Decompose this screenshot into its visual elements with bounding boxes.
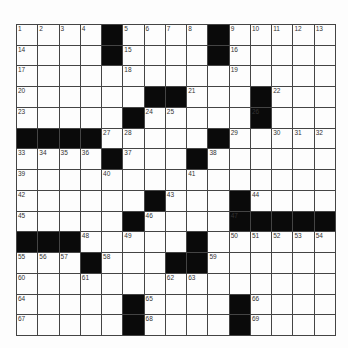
grid-cell[interactable] — [251, 46, 271, 66]
grid-cell[interactable] — [38, 315, 58, 335]
grid-cell[interactable]: 53 — [293, 232, 313, 252]
grid-cell[interactable]: 45 — [17, 212, 37, 232]
grid-cell[interactable]: 1 — [17, 25, 37, 45]
grid-cell[interactable]: 43 — [166, 191, 186, 211]
grid-cell[interactable]: 20 — [17, 87, 37, 107]
grid-cell[interactable] — [166, 129, 186, 149]
grid-cell[interactable]: 67 — [17, 315, 37, 335]
grid-cell[interactable] — [123, 274, 143, 294]
grid-cell[interactable] — [251, 253, 271, 273]
grid-cell[interactable] — [272, 170, 292, 190]
grid-cell[interactable]: 54 — [315, 232, 335, 252]
grid-cell[interactable] — [293, 108, 313, 128]
grid-cell[interactable] — [145, 129, 165, 149]
grid-cell[interactable] — [166, 170, 186, 190]
grid-cell[interactable]: 62 — [166, 274, 186, 294]
grid-cell[interactable]: 11 — [272, 25, 292, 45]
grid-cell[interactable]: 12 — [293, 25, 313, 45]
grid-cell[interactable] — [315, 315, 335, 335]
grid-cell[interactable] — [38, 87, 58, 107]
grid-cell[interactable]: 37 — [123, 149, 143, 169]
grid-cell[interactable]: 55 — [17, 253, 37, 273]
grid-cell[interactable] — [272, 295, 292, 315]
grid-cell[interactable] — [81, 170, 101, 190]
grid-cell[interactable]: 41 — [187, 170, 207, 190]
grid-cell[interactable]: 22 — [272, 87, 292, 107]
grid-cell[interactable] — [293, 253, 313, 273]
grid-cell[interactable] — [60, 66, 80, 86]
grid-cell[interactable] — [315, 170, 335, 190]
grid-cell[interactable] — [208, 212, 228, 232]
grid-cell[interactable] — [166, 149, 186, 169]
grid-cell[interactable] — [230, 108, 250, 128]
grid-cell[interactable]: 66 — [251, 295, 271, 315]
grid-cell[interactable]: 59 — [208, 253, 228, 273]
grid-cell[interactable] — [208, 315, 228, 335]
grid-cell[interactable] — [272, 108, 292, 128]
grid-cell[interactable]: 18 — [123, 66, 143, 86]
grid-cell[interactable] — [102, 295, 122, 315]
grid-cell[interactable] — [293, 274, 313, 294]
grid-cell[interactable] — [123, 191, 143, 211]
grid-cell[interactable]: 9 — [230, 25, 250, 45]
grid-cell[interactable] — [187, 315, 207, 335]
grid-cell[interactable] — [251, 66, 271, 86]
grid-cell[interactable] — [315, 253, 335, 273]
grid-cell[interactable]: 46 — [145, 212, 165, 232]
grid-cell[interactable] — [81, 315, 101, 335]
grid-cell[interactable] — [38, 191, 58, 211]
grid-cell[interactable] — [208, 108, 228, 128]
grid-cell[interactable] — [38, 108, 58, 128]
grid-cell[interactable]: 6 — [145, 25, 165, 45]
grid-cell[interactable] — [187, 129, 207, 149]
grid-cell[interactable] — [60, 170, 80, 190]
grid-cell[interactable] — [60, 212, 80, 232]
grid-cell[interactable]: 10 — [251, 25, 271, 45]
grid-cell[interactable]: 65 — [145, 295, 165, 315]
grid-cell[interactable] — [166, 295, 186, 315]
grid-cell[interactable] — [293, 66, 313, 86]
grid-cell[interactable]: 38 — [208, 149, 228, 169]
grid-cell[interactable] — [145, 253, 165, 273]
grid-cell[interactable] — [60, 46, 80, 66]
grid-cell[interactable] — [293, 87, 313, 107]
grid-cell[interactable] — [315, 66, 335, 86]
grid-cell[interactable] — [208, 170, 228, 190]
grid-cell[interactable] — [60, 274, 80, 294]
grid-cell[interactable] — [187, 46, 207, 66]
grid-cell[interactable] — [102, 274, 122, 294]
grid-cell[interactable] — [123, 87, 143, 107]
grid-cell[interactable] — [60, 315, 80, 335]
grid-cell[interactable] — [315, 108, 335, 128]
grid-cell[interactable] — [145, 66, 165, 86]
grid-cell[interactable] — [102, 212, 122, 232]
grid-cell[interactable]: 15 — [123, 46, 143, 66]
grid-cell[interactable] — [208, 87, 228, 107]
grid-cell[interactable] — [208, 191, 228, 211]
grid-cell[interactable] — [293, 315, 313, 335]
grid-cell[interactable] — [102, 232, 122, 252]
grid-cell[interactable] — [251, 129, 271, 149]
grid-cell[interactable] — [166, 212, 186, 232]
grid-cell[interactable]: 64 — [17, 295, 37, 315]
grid-cell[interactable] — [145, 149, 165, 169]
grid-cell[interactable]: 21 — [187, 87, 207, 107]
grid-cell[interactable] — [315, 46, 335, 66]
grid-cell[interactable] — [38, 170, 58, 190]
grid-cell[interactable] — [102, 315, 122, 335]
grid-cell[interactable] — [293, 170, 313, 190]
grid-cell[interactable]: 5 — [123, 25, 143, 45]
grid-cell[interactable]: 40 — [102, 170, 122, 190]
grid-cell[interactable]: 63 — [187, 274, 207, 294]
grid-cell[interactable] — [187, 66, 207, 86]
grid-cell[interactable] — [272, 315, 292, 335]
grid-cell[interactable] — [187, 108, 207, 128]
grid-cell[interactable] — [293, 46, 313, 66]
grid-cell[interactable] — [230, 149, 250, 169]
grid-cell[interactable]: 27 — [102, 129, 122, 149]
grid-cell[interactable]: 19 — [230, 66, 250, 86]
grid-cell[interactable] — [315, 191, 335, 211]
grid-cell[interactable]: 30 — [272, 129, 292, 149]
grid-cell[interactable] — [81, 46, 101, 66]
grid-cell[interactable]: 13 — [315, 25, 335, 45]
